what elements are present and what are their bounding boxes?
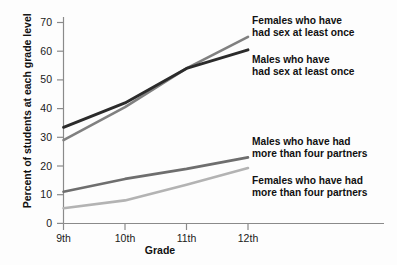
y-tick-label-60: 60 (30, 46, 52, 57)
annotation-females-sex-once-line1: Females who have (252, 15, 355, 27)
annotation-females-four-partners-line1: Females who have had (252, 175, 367, 187)
y-tick-label-50: 50 (30, 74, 52, 85)
y-tick-label-40: 40 (30, 103, 52, 114)
y-tick-label-30: 30 (30, 132, 52, 143)
annotation-females-four-partners: Females who have had more than four part… (252, 175, 367, 200)
x-tick-label-10th: 10th (108, 233, 142, 244)
line-chart: 70 60 50 40 30 20 10 0 9th 10th 11th 12t… (0, 0, 397, 265)
annotation-males-sex-once: Males who have had sex at least once (252, 54, 355, 79)
x-axis-ticks (64, 224, 249, 231)
series-line-females-sex-once (64, 37, 249, 140)
y-tick-label-0: 0 (30, 218, 52, 229)
x-tick-label-11th: 11th (170, 233, 204, 244)
annotation-females-four-partners-line2: more than four partners (252, 187, 367, 199)
annotation-males-four-partners-line1: Males who have had (252, 136, 367, 148)
y-tick-label-10: 10 (30, 189, 52, 200)
x-tick-label-12th: 12th (231, 233, 265, 244)
annotation-males-four-partners-line2: more than four partners (252, 148, 367, 160)
annotation-males-sex-once-line2: had sex at least once (252, 66, 355, 78)
x-tick-label-9th: 9th (47, 233, 81, 244)
x-axis-title: Grade (120, 245, 200, 256)
y-tick-label-20: 20 (30, 161, 52, 172)
y-axis-ticks (57, 23, 64, 224)
annotation-males-sex-once-line1: Males who have (252, 54, 355, 66)
annotation-females-sex-once: Females who have had sex at least once (252, 15, 355, 40)
annotation-females-sex-once-line2: had sex at least once (252, 27, 355, 39)
y-axis-title: Percent of students at each grade level (22, 28, 33, 208)
y-tick-label-70: 70 (30, 17, 52, 28)
annotation-males-four-partners: Males who have had more than four partne… (252, 136, 367, 161)
